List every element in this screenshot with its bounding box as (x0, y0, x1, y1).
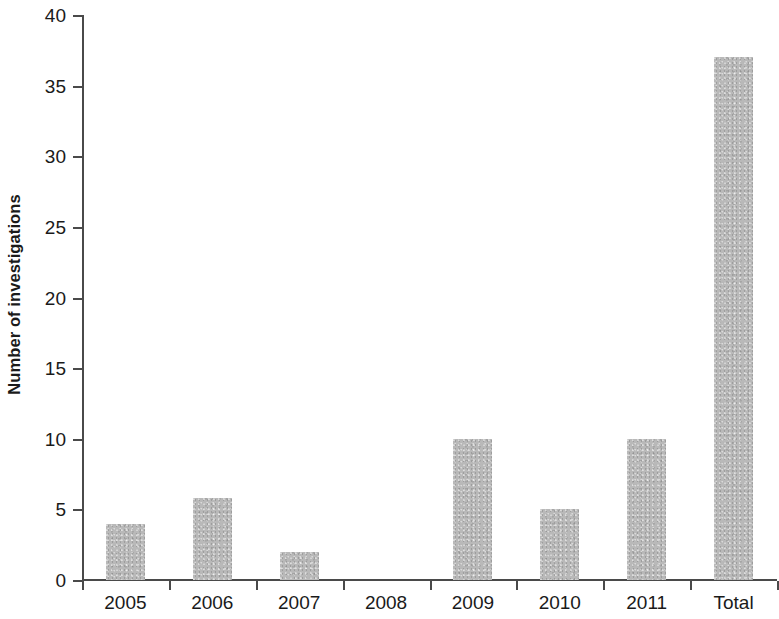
x-axis-labels: 2005200620072008200920102011Total (82, 592, 777, 619)
y-tick-label: 40 (45, 5, 66, 27)
x-label-Total: Total (690, 592, 777, 614)
y-tick-label: 20 (45, 288, 66, 310)
y-tick-mark: 25 (73, 227, 82, 229)
y-tick-label: 5 (55, 499, 66, 521)
x-label-2008: 2008 (343, 592, 430, 614)
y-tick-label: 35 (45, 76, 66, 98)
bar-2007 (280, 552, 319, 580)
y-tick-label: 15 (45, 358, 66, 380)
x-label-2005: 2005 (82, 592, 169, 614)
y-tick-mark: 0 (73, 580, 82, 582)
y-tick-label: 0 (55, 570, 66, 592)
y-tick-label: 10 (45, 429, 66, 451)
bar-2009 (453, 439, 492, 580)
plot-area: 0510152025303540 (82, 15, 777, 580)
y-tick-mark: 35 (73, 86, 82, 88)
bar-2005 (106, 524, 145, 581)
x-label-2010: 2010 (516, 592, 603, 614)
x-tick-mark (603, 581, 605, 590)
x-label-2011: 2011 (603, 592, 690, 614)
y-tick-mark: 20 (73, 298, 82, 300)
y-tick-label: 25 (45, 217, 66, 239)
x-tick-mark (169, 581, 171, 590)
bar-2011 (627, 439, 666, 580)
bar-chart-figure: Number of investigations 051015202530354… (0, 0, 779, 619)
bar-Total (714, 57, 753, 580)
y-tick-mark: 10 (73, 439, 82, 441)
y-tick-label: 30 (45, 146, 66, 168)
x-label-2007: 2007 (256, 592, 343, 614)
y-tick-mark: 15 (73, 368, 82, 370)
x-tick-mark (256, 581, 258, 590)
y-tick-mark: 5 (73, 509, 82, 511)
bar-2010 (540, 509, 579, 580)
x-tick-mark (690, 581, 692, 590)
x-tick-mark (82, 581, 84, 590)
x-tick-mark (343, 581, 345, 590)
x-tick-mark (516, 581, 518, 590)
x-label-2009: 2009 (430, 592, 517, 614)
bar-2006 (193, 498, 232, 580)
x-tick-mark (430, 581, 432, 590)
y-axis-title: Number of investigations (0, 0, 28, 588)
y-tick-mark: 30 (73, 156, 82, 158)
x-label-2006: 2006 (169, 592, 256, 614)
y-axis-title-label: Number of investigations (5, 194, 24, 394)
y-tick-mark: 40 (73, 15, 82, 17)
